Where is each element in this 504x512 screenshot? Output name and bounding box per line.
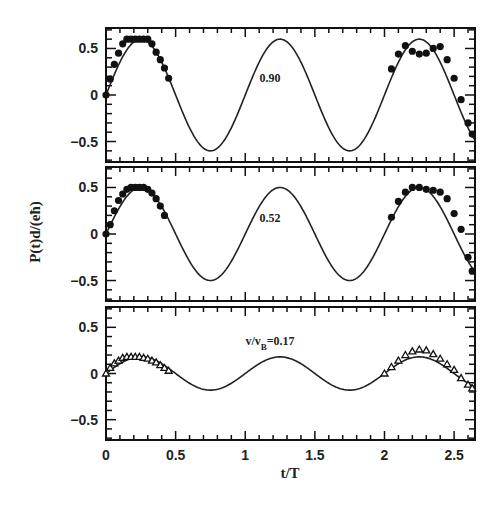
y-tick-label: −0.5 <box>70 134 98 150</box>
x-tick-labels: 00.511.522.5 <box>102 447 464 463</box>
y-tick-label: 0.5 <box>79 40 99 56</box>
data-markers <box>102 36 475 138</box>
y-axis-label: P(t)d/(eħ) <box>27 201 44 263</box>
theory-curve <box>106 357 475 390</box>
y-tick-label: −0.5 <box>70 412 98 428</box>
panel-frame <box>106 28 475 162</box>
x-axis-label: t/T <box>280 465 299 481</box>
y-tick-label: 0.5 <box>79 179 99 195</box>
x-tick-label: 0 <box>102 447 110 463</box>
panel-annotation: v/vB=0.17 <box>245 334 294 352</box>
x-tick-label: 0.5 <box>166 447 186 463</box>
y-tick-label: 0 <box>90 226 98 242</box>
y-tick-label: 0 <box>90 366 98 382</box>
data-markers <box>102 184 475 275</box>
panel-annotation: 0.52 <box>260 211 281 225</box>
y-tick-label: 0 <box>90 87 98 103</box>
panel-frame <box>106 307 475 440</box>
panel-3: 0.50−0.5v/vB=0.17 <box>70 307 475 440</box>
data-markers <box>103 346 476 391</box>
panel-2: 0.50−0.50.52 <box>70 167 475 301</box>
y-tick-label: 0.5 <box>79 319 99 335</box>
panel-annotation: 0.90 <box>260 71 281 85</box>
x-tick-label: 1.5 <box>305 447 325 463</box>
y-tick-label: −0.5 <box>70 273 98 289</box>
x-tick-label: 2.5 <box>444 447 464 463</box>
x-tick-label: 1 <box>241 447 249 463</box>
x-tick-label: 2 <box>381 447 389 463</box>
panel-1: 0.50−0.50.90 <box>70 28 475 162</box>
figure: 0.50−0.50.900.50−0.50.520.50−0.5v/vB=0.1… <box>0 0 504 512</box>
panels: 0.50−0.50.900.50−0.50.520.50−0.5v/vB=0.1… <box>70 28 475 440</box>
theory-curve <box>106 187 475 280</box>
